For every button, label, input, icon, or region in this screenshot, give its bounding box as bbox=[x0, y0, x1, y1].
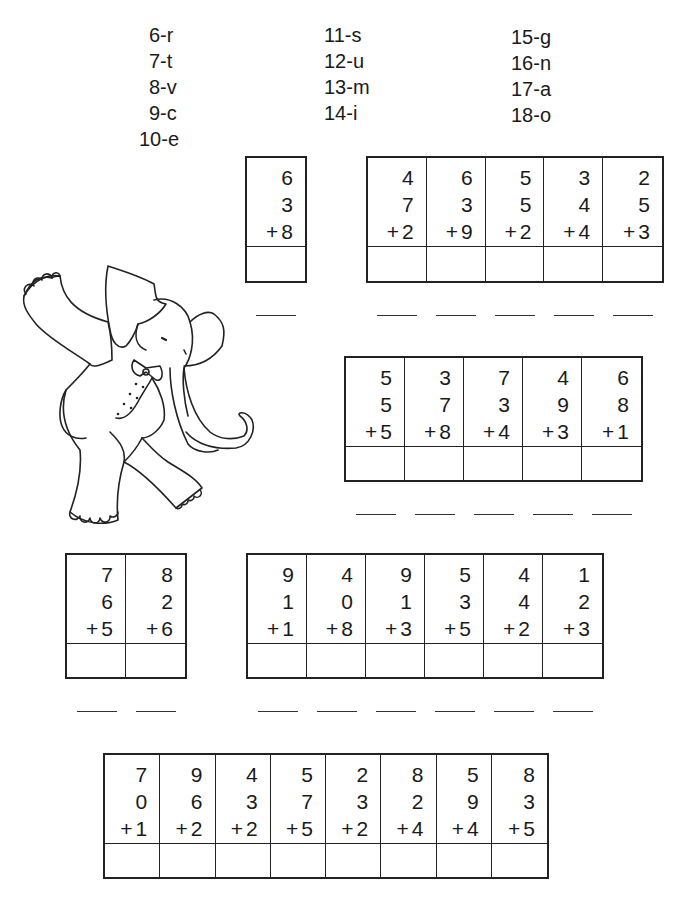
answer-box[interactable] bbox=[464, 447, 522, 480]
plus-sign: + bbox=[341, 817, 353, 840]
addend-with-plus: +4 bbox=[464, 418, 510, 445]
key-entry: 6-r bbox=[145, 22, 179, 48]
answer-box[interactable] bbox=[216, 844, 270, 877]
letter-answer-line[interactable] bbox=[77, 711, 117, 712]
addend: 4 bbox=[216, 761, 258, 788]
addend: 7 bbox=[105, 761, 147, 788]
plus-sign: + bbox=[231, 817, 243, 840]
answer-box[interactable] bbox=[427, 247, 485, 281]
letter-answer-line[interactable] bbox=[592, 514, 632, 515]
answer-box[interactable] bbox=[346, 447, 404, 480]
problem-column: 76+5 bbox=[67, 555, 126, 677]
addend: 3 bbox=[427, 191, 473, 218]
letter-answer-line[interactable] bbox=[495, 315, 535, 316]
problem-column: 49+3 bbox=[523, 358, 582, 480]
addition-problem: 23+2 bbox=[326, 755, 380, 844]
addend: 2 bbox=[520, 220, 532, 243]
letter-answer-line[interactable] bbox=[356, 514, 396, 515]
problem-column: 23+2 bbox=[326, 755, 381, 877]
problem-column: 25+3 bbox=[603, 158, 662, 281]
answer-box[interactable] bbox=[368, 247, 426, 281]
answer-box[interactable] bbox=[271, 844, 325, 877]
letter-answer-line[interactable] bbox=[553, 711, 593, 712]
answer-box[interactable] bbox=[67, 644, 125, 677]
addend: 4 bbox=[498, 420, 510, 443]
answer-box[interactable] bbox=[405, 447, 463, 480]
letter-answer-line[interactable] bbox=[376, 711, 416, 712]
addend: 6 bbox=[161, 617, 173, 640]
addend-with-plus: +5 bbox=[425, 615, 471, 642]
addend: 2 bbox=[357, 817, 369, 840]
addend: 5 bbox=[486, 191, 532, 218]
letter-answer-line[interactable] bbox=[256, 315, 296, 316]
plus-sign: + bbox=[444, 617, 456, 640]
letter-answer-line[interactable] bbox=[533, 514, 573, 515]
plus-sign: + bbox=[623, 220, 635, 243]
answer-box[interactable] bbox=[492, 844, 547, 877]
plus-sign: + bbox=[176, 817, 188, 840]
letter-answer-line[interactable] bbox=[317, 711, 357, 712]
answer-box[interactable] bbox=[437, 844, 491, 877]
addend-with-plus: +5 bbox=[271, 815, 313, 842]
problem-column: 53+5 bbox=[425, 555, 484, 677]
addend: 4 bbox=[579, 220, 591, 243]
letter-answer-line[interactable] bbox=[415, 514, 455, 515]
key-entry: 10-e bbox=[139, 126, 179, 152]
answer-box[interactable] bbox=[484, 644, 542, 677]
plus-sign: + bbox=[387, 220, 399, 243]
addend: 3 bbox=[638, 220, 650, 243]
addend: 5 bbox=[271, 761, 313, 788]
answer-box[interactable] bbox=[543, 644, 602, 677]
addend-with-plus: +2 bbox=[216, 815, 258, 842]
answer-box[interactable] bbox=[544, 247, 602, 281]
addend-with-plus: +6 bbox=[126, 615, 173, 642]
plus-sign: + bbox=[424, 420, 436, 443]
problem-column: 55+5 bbox=[346, 358, 405, 480]
letter-answer-line[interactable] bbox=[474, 514, 514, 515]
answer-box[interactable] bbox=[381, 844, 435, 877]
answer-box[interactable] bbox=[486, 247, 544, 281]
addend: 2 bbox=[381, 788, 423, 815]
letter-answer-line[interactable] bbox=[554, 315, 594, 316]
addition-problem: 57+5 bbox=[271, 755, 325, 844]
addition-problem: 47+2 bbox=[368, 158, 426, 247]
answer-box[interactable] bbox=[307, 644, 365, 677]
addend: 3 bbox=[544, 164, 590, 191]
letter-key-column-3: 15-g 16-n 17-a 18-o bbox=[511, 24, 551, 128]
answer-box[interactable] bbox=[366, 644, 424, 677]
key-entry: 7-t bbox=[145, 48, 179, 74]
answer-box[interactable] bbox=[425, 644, 483, 677]
letter-answer-line[interactable] bbox=[377, 315, 417, 316]
addend: 9 bbox=[437, 788, 479, 815]
addend-with-plus: +8 bbox=[307, 615, 353, 642]
answer-box[interactable] bbox=[603, 247, 662, 281]
addition-problem: 63+8 bbox=[247, 158, 305, 247]
letter-answer-line[interactable] bbox=[136, 711, 176, 712]
problem-column: 82+4 bbox=[381, 755, 436, 877]
addend: 5 bbox=[346, 364, 392, 391]
letter-answer-line[interactable] bbox=[494, 711, 534, 712]
problem-column: 55+2 bbox=[486, 158, 545, 281]
addend: 3 bbox=[557, 420, 569, 443]
letter-answer-line[interactable] bbox=[435, 711, 475, 712]
answer-box[interactable] bbox=[160, 844, 214, 877]
answer-box[interactable] bbox=[126, 644, 185, 677]
letter-answer-line[interactable] bbox=[613, 315, 653, 316]
addend: 5 bbox=[523, 817, 535, 840]
answer-box[interactable] bbox=[326, 844, 380, 877]
answer-box[interactable] bbox=[523, 447, 581, 480]
addend: 3 bbox=[326, 788, 368, 815]
answer-box[interactable] bbox=[105, 844, 159, 877]
addend: 2 bbox=[246, 817, 258, 840]
addend: 8 bbox=[381, 761, 423, 788]
addition-problem: 55+5 bbox=[346, 358, 404, 447]
key-entry: 9-c bbox=[145, 100, 179, 126]
addend: 1 bbox=[543, 561, 590, 588]
problem-column: 96+2 bbox=[160, 755, 215, 877]
letter-answer-line[interactable] bbox=[258, 711, 298, 712]
addend: 7 bbox=[464, 364, 510, 391]
addend: 9 bbox=[523, 391, 569, 418]
answer-box[interactable] bbox=[582, 447, 641, 480]
letter-answer-line[interactable] bbox=[436, 315, 476, 316]
answer-box[interactable] bbox=[248, 644, 306, 677]
